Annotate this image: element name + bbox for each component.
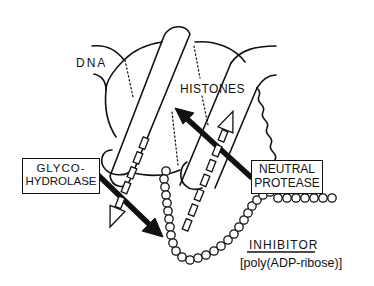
histone-disk-left-arc xyxy=(106,60,124,90)
dna-strand-lower xyxy=(94,74,106,90)
histone-cylinder xyxy=(110,27,190,187)
neutral-protease-label-line2: PROTEASE xyxy=(252,177,322,191)
release-arrow-left xyxy=(103,135,154,230)
release-arrow-right xyxy=(178,108,241,233)
inhibitor-label: INHIBITOR xyxy=(249,239,318,251)
glycohydrolase-label-line1: GLYCO- xyxy=(23,162,99,175)
glycohydrolase-label-line2: HYDROLASE xyxy=(23,175,99,188)
glycohydrolase-box: GLYCO- HYDROLASE xyxy=(22,158,100,194)
inhibitor-detail-label: [poly(ADP-ribose)] xyxy=(240,257,342,270)
histone-lobe-base xyxy=(130,170,180,176)
dna-label: DNA xyxy=(76,57,107,69)
histone-disk-center xyxy=(195,42,245,62)
neutral-protease-label-line1: NEUTRAL xyxy=(252,163,322,177)
dna-strand-right-lower xyxy=(257,75,276,88)
wavy-chain xyxy=(257,88,277,168)
neutral-protease-box: NEUTRAL PROTEASE xyxy=(251,160,323,194)
chromatin-diagram: DNA HISTONES GLYCO- HYDROLASE NEUTRAL PR… xyxy=(0,0,374,286)
histones-label: HISTONES xyxy=(180,83,245,95)
